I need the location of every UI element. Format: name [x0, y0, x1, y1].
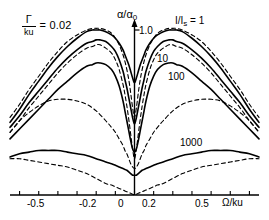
- x-tick-label-neg-0-2: -0.2: [79, 199, 96, 209]
- curve-label-i-over-is-eq: = 1: [187, 15, 204, 26]
- gamma-fraction: Γ ku: [22, 14, 36, 37]
- curve-label-10: 10: [157, 54, 168, 64]
- x-tick-label-neg-0-5: -0.5: [27, 199, 44, 209]
- y-axis-title-main: α/α: [117, 8, 133, 20]
- gamma-numerator: Γ: [24, 14, 34, 26]
- x-tick-label-0-2: 0.2: [142, 199, 156, 209]
- y-tick-label-1: 1.0: [139, 26, 153, 36]
- curve-label-1000: 1000: [180, 138, 202, 148]
- x-tick-label-0: 0: [118, 199, 124, 209]
- gamma-over-ku-label: Γ ku = 0.02: [22, 14, 72, 37]
- x-axis-title: Ω/ku: [222, 198, 243, 208]
- gamma-value: = 0.02: [40, 20, 72, 31]
- axes-layer: [10, 19, 259, 195]
- y-axis-title: α/α0: [117, 9, 137, 22]
- gamma-denominator: ku: [22, 26, 36, 37]
- y-axis-title-subscript: 0: [133, 13, 137, 22]
- x-tick-label-0-5: 0.5: [195, 199, 209, 209]
- curve-label-100: 100: [168, 72, 185, 82]
- absorption-spectrum-figure: Γ ku = 0.02 α/α0 1.0 I/Is = 1 10 100 100…: [0, 0, 269, 220]
- curve-label-i-over-is: I/Is = 1: [175, 16, 204, 28]
